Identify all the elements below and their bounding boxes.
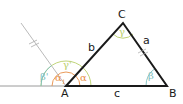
side-a-label: a xyxy=(143,34,150,47)
angle-beta-prime-label: β' xyxy=(40,71,49,82)
angle-gamma-label: γ xyxy=(119,26,125,37)
angle-gamma-prime-label: γ' xyxy=(63,59,72,70)
angle-alpha-label: α xyxy=(80,72,87,83)
triangle-diagram: A B C b a c α α1 β' γ' β γ xyxy=(0,0,183,104)
vertex-c-label: C xyxy=(118,8,126,21)
side-b-label: b xyxy=(88,41,95,54)
side-c-label: c xyxy=(114,87,120,100)
angle-beta-label: β xyxy=(148,70,154,81)
vertex-a-label: A xyxy=(61,87,69,100)
vertex-b-label: B xyxy=(169,87,177,100)
angle-alpha1-label: α1 xyxy=(55,72,66,85)
